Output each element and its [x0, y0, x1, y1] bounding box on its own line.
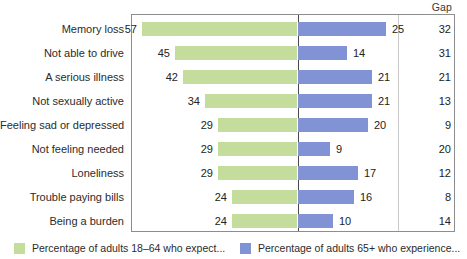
bar-blue[interactable]	[298, 166, 358, 180]
bar-green-value: 29	[201, 113, 213, 137]
gap-value: 14	[400, 209, 451, 233]
bar-blue-value: 21	[378, 89, 390, 113]
bar-blue[interactable]	[298, 214, 333, 228]
gap-value: 21	[400, 65, 451, 89]
chart-rows: Memory loss572532Not able to drive451431…	[0, 0, 467, 259]
category-label: A serious illness	[0, 65, 124, 89]
gap-value: 13	[400, 89, 451, 113]
bar-blue-value: 20	[374, 113, 386, 137]
bar-green-value: 34	[188, 89, 200, 113]
left-bar-cell: 29	[132, 161, 297, 185]
bar-blue-value: 9	[336, 137, 342, 161]
bar-green[interactable]	[232, 190, 297, 204]
chart-row: Not sexually active342113	[0, 89, 467, 113]
chart-row: Not feeling needed29920	[0, 137, 467, 161]
bar-blue[interactable]	[298, 142, 330, 156]
bar-green[interactable]	[232, 214, 297, 228]
bar-green[interactable]	[218, 118, 297, 132]
gap-value: 32	[400, 17, 451, 41]
chart-legend: Percentage of adults 18–64 who expect...…	[14, 240, 467, 256]
chart-row: Being a burden241014	[0, 209, 467, 233]
chart-row: A serious illness422121	[0, 65, 467, 89]
bar-blue-value: 10	[339, 209, 351, 233]
chart-row: Not able to drive451431	[0, 41, 467, 65]
bar-blue-value: 16	[360, 185, 372, 209]
legend-label-18-64: Percentage of adults 18–64 who expect...	[32, 242, 225, 254]
bar-green[interactable]	[183, 70, 297, 84]
gap-value: 9	[400, 113, 451, 137]
category-label: Loneliness	[0, 161, 124, 185]
diverging-bar-chart: Gap Memory loss572532Not able to drive45…	[0, 0, 467, 259]
chart-row: Trouble paying bills24168	[0, 185, 467, 209]
bar-blue[interactable]	[298, 94, 372, 108]
category-label: Not feeling needed	[0, 137, 124, 161]
bar-green-value: 29	[201, 137, 213, 161]
gap-value: 20	[400, 137, 451, 161]
gap-value: 31	[400, 41, 451, 65]
left-bar-cell: 29	[132, 113, 297, 137]
bar-blue[interactable]	[298, 118, 368, 132]
bar-green[interactable]	[218, 142, 297, 156]
legend-item-18-64[interactable]: Percentage of adults 18–64 who expect...	[14, 240, 225, 256]
category-label: Not able to drive	[0, 41, 124, 65]
bar-blue[interactable]	[298, 22, 386, 36]
left-bar-cell: 24	[132, 185, 297, 209]
gap-value: 8	[400, 185, 451, 209]
left-bar-cell: 42	[132, 65, 297, 89]
bar-blue-value: 14	[353, 41, 365, 65]
bar-green[interactable]	[205, 94, 297, 108]
category-label: Trouble paying bills	[0, 185, 124, 209]
bar-blue[interactable]	[298, 190, 354, 204]
category-label: Memory loss	[0, 17, 124, 41]
category-label: Not sexually active	[0, 89, 124, 113]
category-label: Feeling sad or depressed	[0, 113, 124, 137]
left-bar-cell: 24	[132, 209, 297, 233]
legend-label-65-plus: Percentage of adults 65+ who experience.…	[258, 242, 460, 254]
legend-swatch-green-icon	[14, 243, 25, 254]
bar-green[interactable]	[218, 166, 297, 180]
legend-swatch-blue-icon	[240, 243, 251, 254]
bar-blue-value: 21	[378, 65, 390, 89]
bar-green-value: 57	[125, 17, 137, 41]
chart-row: Feeling sad or depressed29209	[0, 113, 467, 137]
chart-row: Loneliness291712	[0, 161, 467, 185]
bar-blue[interactable]	[298, 70, 372, 84]
left-bar-cell: 34	[132, 89, 297, 113]
bar-green[interactable]	[142, 22, 297, 36]
bar-green-value: 24	[215, 209, 227, 233]
left-bar-cell: 29	[132, 137, 297, 161]
bar-green[interactable]	[175, 46, 297, 60]
bar-blue[interactable]	[298, 46, 347, 60]
bar-green-value: 42	[166, 65, 178, 89]
left-bar-cell: 57	[132, 17, 297, 41]
legend-item-65-plus[interactable]: Percentage of adults 65+ who experience.…	[240, 240, 460, 256]
bar-blue-value: 17	[364, 161, 376, 185]
left-bar-cell: 45	[132, 41, 297, 65]
bar-green-value: 29	[201, 161, 213, 185]
bar-green-value: 24	[215, 185, 227, 209]
chart-row: Memory loss572532	[0, 17, 467, 41]
gap-value: 12	[400, 161, 451, 185]
bar-green-value: 45	[158, 41, 170, 65]
category-label: Being a burden	[0, 209, 124, 233]
